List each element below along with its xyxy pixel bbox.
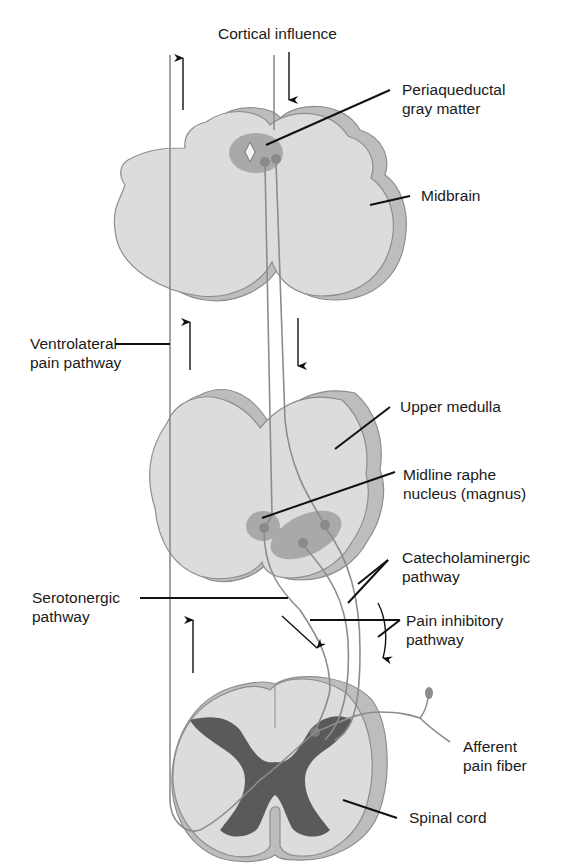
dorsal-root-ganglion bbox=[425, 687, 433, 699]
label-line: pain pathway bbox=[30, 353, 121, 372]
label-line: pain fiber bbox=[463, 756, 527, 775]
label-spinal-cord: Spinal cord bbox=[409, 808, 487, 827]
label-ventrolateral-pathway: Ventrolateral pain pathway bbox=[30, 334, 121, 372]
label-line: Afferent bbox=[463, 737, 527, 756]
catecholamine-nucleus-left bbox=[298, 538, 308, 548]
label-upper-medulla: Upper medulla bbox=[400, 397, 501, 416]
periaqueductal-gray-halo bbox=[229, 133, 283, 173]
label-serotonergic: Serotonergic pathway bbox=[32, 588, 120, 626]
label-line: Pain inhibitory bbox=[406, 611, 503, 630]
label-line: pathway bbox=[32, 607, 120, 626]
label-line: Serotonergic bbox=[32, 588, 120, 607]
label-catecholaminergic: Catecholaminergic pathway bbox=[402, 548, 530, 586]
label-pain-inhibitory: Pain inhibitory pathway bbox=[406, 611, 503, 649]
label-line: Ventrolateral bbox=[30, 334, 121, 353]
title-cortical-influence: Cortical influence bbox=[218, 24, 337, 43]
label-line: Catecholaminergic bbox=[402, 548, 530, 567]
label-midbrain: Midbrain bbox=[421, 186, 480, 205]
afferent-branch bbox=[420, 698, 428, 718]
midbrain-section bbox=[114, 106, 406, 300]
label-line: pathway bbox=[406, 630, 503, 649]
label-periaqueductal-gray: Periaqueductal gray matter bbox=[402, 80, 505, 118]
label-line: Midline raphe bbox=[403, 465, 526, 484]
label-afferent-pain-fiber: Afferent pain fiber bbox=[463, 737, 527, 775]
label-line: Periaqueductal bbox=[402, 80, 505, 99]
label-line: nucleus (magnus) bbox=[403, 484, 526, 503]
arrow-curved bbox=[378, 603, 386, 658]
label-line: gray matter bbox=[402, 99, 505, 118]
label-line: pathway bbox=[402, 567, 530, 586]
label-midline-raphe: Midline raphe nucleus (magnus) bbox=[403, 465, 526, 503]
spinal-cord-section bbox=[172, 677, 387, 862]
